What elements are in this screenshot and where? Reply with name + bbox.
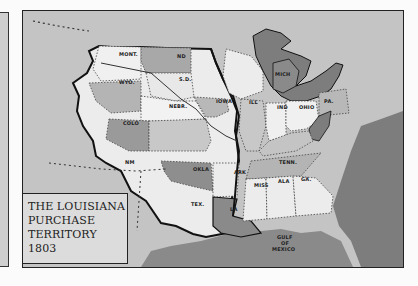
state-georgia — [293, 176, 333, 216]
label-iowa: IOWA — [216, 98, 232, 104]
title-line-1: THE LOUISIANA — [28, 200, 127, 214]
label-ala: ALA — [278, 178, 290, 184]
label-miss: MISS — [254, 182, 269, 188]
title-line-4: 1803 — [28, 242, 127, 256]
label-ind: IND — [277, 104, 288, 110]
label-sd: S.D. — [179, 76, 191, 82]
label-colo: COLO — [123, 120, 139, 126]
atlantic-ocean — [333, 111, 403, 267]
label-tenn: TENN. — [279, 159, 297, 165]
northern-boundary-line — [33, 21, 89, 31]
label-ga: GA. — [301, 176, 312, 182]
label-nm: NM — [125, 159, 135, 165]
label-nebr: NEBR. — [169, 103, 187, 109]
label-nd: ND — [177, 53, 186, 59]
label-mich: MICH — [275, 71, 291, 77]
state-illinois — [239, 99, 266, 151]
label-mont: MONT. — [119, 51, 138, 57]
title-line-3: TERRITORY — [28, 228, 127, 242]
title-line-2: PURCHASE — [28, 214, 127, 228]
label-ohio: OHIO — [299, 104, 314, 110]
label-pa: PA. — [324, 98, 334, 104]
great-lakes — [253, 29, 343, 101]
state-north-dakota — [141, 47, 191, 73]
label-mexico: MEXICO — [272, 246, 295, 252]
label-ill: ILL — [249, 99, 258, 105]
label-tex: TEX. — [191, 201, 204, 207]
label-ark: ARK — [234, 169, 247, 175]
adjacent-panel-edge — [0, 12, 9, 267]
label-wyo: WYO. — [119, 79, 135, 85]
state-kansas — [149, 119, 211, 151]
label-okla: OKLA — [193, 166, 209, 172]
map-title-box: THE LOUISIANA PURCHASE TERRITORY 1803 — [22, 193, 128, 264]
label-la: LA — [230, 206, 237, 212]
